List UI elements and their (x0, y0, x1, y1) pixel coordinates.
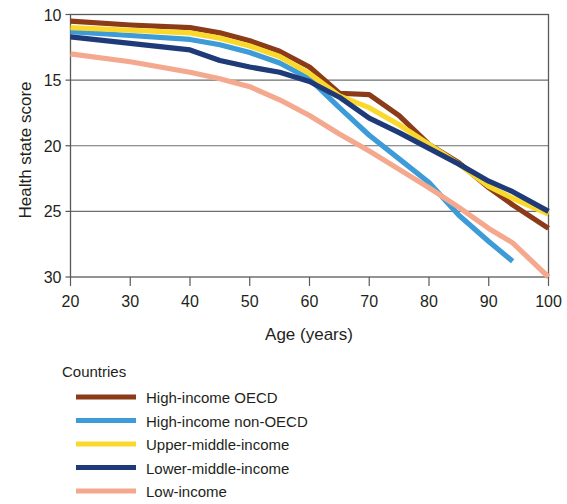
x-tick-label: 20 (62, 293, 80, 310)
x-tick-label: 70 (360, 293, 378, 310)
y-tick-label: 20 (44, 138, 62, 155)
legend-label-high-income-oecd: High-income OECD (146, 389, 278, 406)
health-state-score-line-chart: Health state score 1015202530 2030405060… (0, 0, 567, 504)
x-tick-label: 100 (535, 293, 562, 310)
legend-label-lower-middle-income: Lower-middle-income (146, 460, 289, 477)
x-tick-label: 60 (301, 293, 319, 310)
legend-label-low-income: Low-income (146, 483, 227, 500)
y-tick-label: 15 (44, 72, 62, 89)
legend-title: Countries (62, 363, 126, 380)
x-axis-title: Age (years) (265, 325, 353, 344)
y-tick-label: 10 (44, 7, 62, 24)
legend-label-high-income-non-oecd: High-income non-OECD (146, 413, 308, 430)
y-tick-label: 30 (44, 269, 62, 286)
legend-label-upper-middle-income: Upper-middle-income (146, 436, 289, 453)
x-axis-tick-labels: 2030405060708090100 (62, 293, 562, 310)
x-tick-label: 50 (241, 293, 259, 310)
x-tick-label: 90 (480, 293, 498, 310)
y-axis-title: Health state score (16, 81, 35, 218)
x-tick-label: 80 (420, 293, 438, 310)
y-tick-label: 25 (44, 203, 62, 220)
x-tick-label: 40 (181, 293, 199, 310)
x-tick-label: 30 (121, 293, 139, 310)
